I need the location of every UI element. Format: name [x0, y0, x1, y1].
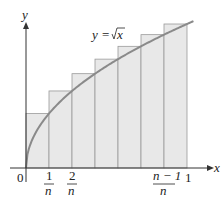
- function-label: y = x: [90, 27, 125, 42]
- func-x: x: [116, 27, 123, 42]
- riemann-rectangle: [164, 24, 187, 168]
- y-axis-label: y: [20, 7, 28, 22]
- chart-svg: y x 0 1 1 n 2 n n − 1 n y = x: [0, 0, 223, 200]
- origin-label: 0: [17, 170, 24, 185]
- rectangles: [26, 24, 187, 168]
- x-axis-arrow-icon: [207, 165, 214, 171]
- riemann-rectangle: [118, 46, 141, 168]
- x-axis-label: x: [213, 160, 220, 175]
- func-eq: =: [102, 27, 109, 42]
- riemann-sum-figure: y x 0 1 1 n 2 n n − 1 n y = x: [0, 0, 223, 200]
- tick-2n-numerator: 2: [69, 168, 76, 183]
- riemann-rectangle: [95, 59, 118, 168]
- tick-1n-numerator: 1: [46, 168, 53, 183]
- y-axis-arrow-icon: [23, 22, 29, 29]
- tick-n1n-denominator: n: [160, 183, 167, 198]
- func-y: y: [90, 27, 98, 42]
- tick-1n-denominator: n: [45, 183, 52, 198]
- tick-n1n-numerator: n − 1: [153, 168, 181, 183]
- tick-one-label: 1: [185, 170, 192, 185]
- riemann-rectangle: [141, 35, 164, 168]
- riemann-rectangle: [26, 114, 49, 168]
- tick-2n-denominator: n: [68, 183, 75, 198]
